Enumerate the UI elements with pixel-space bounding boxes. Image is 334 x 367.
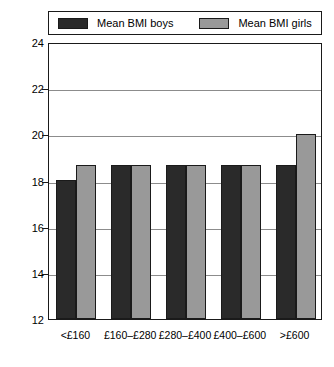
y-axis-tick-label: 14 <box>4 269 44 280</box>
bar-girls <box>296 134 316 319</box>
y-axis-tick-label: 20 <box>4 130 44 141</box>
legend-swatch-boys <box>58 18 88 29</box>
y-axis-tick-label: 18 <box>4 177 44 188</box>
legend-swatch-girls <box>199 18 229 29</box>
legend-entry-girls: Mean BMI girls <box>199 12 311 34</box>
bar-group <box>111 44 151 319</box>
bar-group <box>56 44 96 319</box>
bars-layer <box>49 44 321 319</box>
x-axis-tick-label: £280–£400 <box>159 330 212 341</box>
bar-girls <box>241 165 261 319</box>
x-axis-tick-label: >£600 <box>280 330 310 341</box>
bar-boys <box>166 165 186 319</box>
plot-area <box>48 43 322 320</box>
x-axis-tick-label: £160–£280 <box>104 330 157 341</box>
bar-group <box>276 44 316 319</box>
y-axis-tick-label: 22 <box>4 84 44 95</box>
bar-boys <box>111 165 131 319</box>
bar-boys <box>276 165 296 319</box>
bar-group <box>221 44 261 319</box>
bar-boys <box>56 180 76 319</box>
legend-label-boys: Mean BMI boys <box>97 18 173 29</box>
bar-girls <box>131 165 151 319</box>
y-axis-tick-label: 24 <box>4 38 44 49</box>
bar-boys <box>221 165 241 319</box>
y-axis-tick-label: 16 <box>4 223 44 234</box>
bmi-bar-chart: Mean BMI boys Mean BMI girls 24222018161… <box>0 0 334 367</box>
chart-legend: Mean BMI boys Mean BMI girls <box>48 11 322 35</box>
bar-girls <box>186 165 206 319</box>
bar-group <box>166 44 206 319</box>
x-axis-tick-label: £400–£600 <box>214 330 267 341</box>
legend-entry-boys: Mean BMI boys <box>58 12 173 34</box>
legend-label-girls: Mean BMI girls <box>238 18 311 29</box>
bar-girls <box>76 165 96 319</box>
y-axis-tick-label: 12 <box>4 315 44 326</box>
x-axis-tick-label: <£160 <box>61 330 91 341</box>
